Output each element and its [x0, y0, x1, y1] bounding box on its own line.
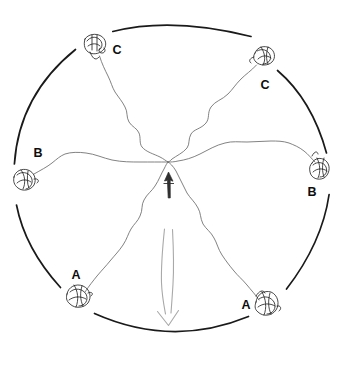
station-label-b-left: B: [33, 146, 42, 160]
station-label-a-bottom-right: A: [241, 298, 250, 312]
figure-canvas: C C B B A A: [0, 0, 345, 365]
arena-trace-figure: C C B B A A: [0, 0, 345, 365]
station-label-a-bottom-left: A: [71, 268, 80, 282]
station-label-c-top-left: C: [112, 43, 121, 57]
station-label-b-right: B: [307, 185, 316, 199]
figure-background: [0, 0, 345, 365]
station-label-c-top-right: C: [260, 78, 269, 92]
